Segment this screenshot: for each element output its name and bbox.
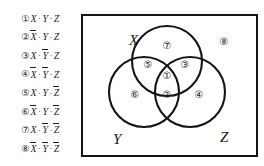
region-label-z-only: ④ <box>195 90 204 100</box>
term-number: ⑦ <box>21 125 30 135</box>
literal: Z <box>54 50 60 61</box>
literal: X <box>30 87 37 98</box>
region-label-x-and-z-not-y: ③ <box>181 60 190 70</box>
literal-complemented: X <box>30 31 37 42</box>
term-row: ⑦X·Y·Z <box>0 121 81 140</box>
set-label-x: X <box>129 33 138 48</box>
term-expression: X·Y·Z <box>30 69 60 80</box>
set-label-z: Z <box>220 130 228 145</box>
region-label-x-and-y-not-z: ⑤ <box>144 60 153 70</box>
term-expression: X·Y·Z <box>30 124 60 135</box>
term-row: ⑤X·Y·Z <box>0 83 81 102</box>
term-row: ①X·Y·Z <box>0 9 81 28</box>
product-term-list: ①X·Y·Z②X·Y·Z③X·Y·Z④X·Y·Z⑤X·Y·Z⑥X·Y·Z⑦X·Y… <box>0 9 81 166</box>
region-label-x-only: ⑦ <box>163 41 172 51</box>
set-label-y: Y <box>113 132 121 147</box>
term-expression: X·Y·Z <box>30 50 60 61</box>
term-row: ②X·Y·Z <box>0 28 81 47</box>
literal: Z <box>54 69 60 80</box>
literal-complemented: X <box>30 106 37 117</box>
literal: X <box>30 124 37 135</box>
term-expression: X·Y·Z <box>30 31 60 42</box>
term-expression: X·Y·Z <box>30 13 60 24</box>
literal-complemented: Z <box>54 106 60 117</box>
region-label-outside-all: ⑧ <box>220 37 229 47</box>
term-number: ⑤ <box>21 88 30 98</box>
literal-complemented: X <box>30 143 37 154</box>
venn-diagram-figure: ①X·Y·Z②X·Y·Z③X·Y·Z④X·Y·Z⑤X·Y·Z⑥X·Y·Z⑦X·Y… <box>0 0 264 166</box>
term-number: ④ <box>21 69 30 79</box>
term-expression: X·Y·Z <box>30 106 60 117</box>
literal: X <box>30 50 37 61</box>
term-number: ⑥ <box>21 107 30 117</box>
term-number: ② <box>21 32 30 42</box>
literal-complemented: Z <box>54 143 60 154</box>
term-row: ⑥X·Y·Z <box>0 102 81 121</box>
term-row: ③X·Y·Z <box>0 46 81 65</box>
term-row: ④X·Y·Z <box>0 65 81 84</box>
term-expression: X·Y·Z <box>30 143 60 154</box>
literal-complemented: Z <box>54 87 60 98</box>
term-number: ③ <box>21 51 30 61</box>
term-number: ① <box>21 14 30 24</box>
literal: Z <box>54 31 60 42</box>
literal: X <box>30 13 37 24</box>
literal-complemented: Z <box>54 124 60 135</box>
region-label-y-and-z-not-x: ② <box>163 90 172 100</box>
venn-circle-x <box>132 26 202 96</box>
term-expression: X·Y·Z <box>30 87 60 98</box>
region-label-x-and-y-and-z: ① <box>163 71 172 81</box>
term-number: ⑧ <box>21 144 30 154</box>
venn-universe-rectangle: XYZ①②③④⑤⑥⑦⑧ <box>81 14 258 157</box>
venn-circles <box>83 16 256 155</box>
region-label-y-only: ⑥ <box>131 90 140 100</box>
term-row: ⑧X·Y·Z <box>0 139 81 158</box>
literal-complemented: X <box>30 69 37 80</box>
literal: Z <box>54 13 60 24</box>
